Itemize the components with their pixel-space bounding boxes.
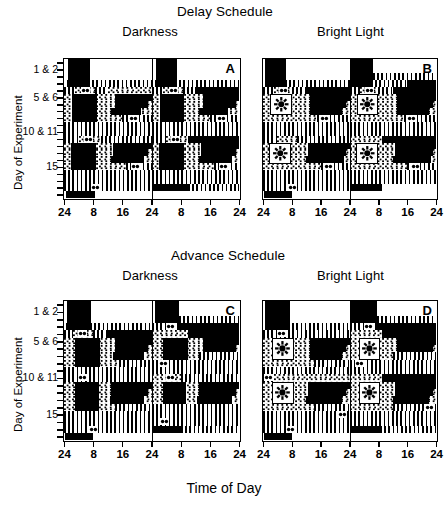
activity-segment-dark: [397, 94, 437, 101]
x-tick-label: 16: [394, 206, 422, 218]
block-title-advance: Advance Schedule: [118, 248, 338, 263]
panel-condition-darkness-advance: Darkness: [85, 268, 215, 283]
activity-segment-dark: [163, 352, 189, 359]
activity-segment-dark: [75, 345, 101, 352]
midnight-divider: [152, 59, 153, 199]
onset-marker-icon: [89, 426, 98, 433]
activity-segment-dark: [75, 352, 101, 359]
activity-segment-dark: [71, 149, 96, 156]
activity-segment-hatch: [101, 136, 152, 143]
activity-segment-hatch: [152, 367, 240, 374]
activity-segment-hatch: [64, 418, 152, 425]
onset-marker-icon: [425, 404, 434, 411]
sun-icon-box: [356, 143, 378, 164]
activity-segment-dark: [68, 59, 89, 66]
activity-segment-dark: [199, 382, 239, 389]
actogram-figure: Delay Schedule Darkness Bright Light Adv…: [0, 0, 448, 514]
sun-icon: [361, 384, 378, 401]
y-tick-label: 15: [2, 408, 58, 420]
y-tick-mark: [57, 153, 63, 155]
activity-segment-hatch: [350, 129, 437, 136]
activity-segment-dark: [397, 108, 429, 115]
activity-segment-hatch: [64, 87, 75, 94]
x-tick-label: 24: [423, 448, 448, 460]
y-tick-mark: [57, 348, 63, 350]
midnight-divider: [350, 59, 351, 199]
x-tick-label: 16: [109, 206, 137, 218]
activity-segment-dark: [308, 382, 349, 389]
activity-segment-dark: [308, 149, 346, 156]
activity-segment-dark: [113, 352, 144, 359]
x-tick-mark: [151, 442, 152, 447]
onset-marker-icon: [169, 87, 178, 94]
activity-segment-hatch: [292, 87, 306, 94]
activity-segment-dark: [71, 156, 96, 163]
onset-marker-icon: [84, 136, 93, 143]
activity-segment-hatch: [263, 177, 350, 184]
activity-segment-dark: [306, 87, 349, 94]
activity-segment-dark: [397, 101, 433, 108]
onset-marker-icon: [288, 184, 297, 191]
y-tick-mark: [57, 181, 63, 183]
y-tick-mark: [57, 319, 63, 321]
activity-segment-dark: [159, 163, 184, 170]
activity-segment-dark: [188, 330, 239, 337]
activity-segment-stip: [277, 136, 297, 143]
activity-segment-hatch: [64, 129, 152, 136]
x-tick-mark: [181, 200, 182, 205]
x-tick-label: 24: [336, 448, 364, 460]
activity-segment-dark: [203, 338, 240, 345]
activity-segment-dark: [115, 94, 152, 101]
activity-segment-hatch: [314, 360, 350, 367]
y-tick-mark: [57, 326, 63, 328]
activity-segment-dark: [310, 108, 342, 115]
activity-segment-dark: [393, 156, 431, 163]
activity-segment-dark: [115, 101, 148, 108]
activity-segment-dark: [156, 59, 177, 66]
activity-segment-dark: [351, 73, 373, 80]
activity-segment-hatch: [263, 367, 350, 374]
activity-segment-hatch: [263, 330, 350, 337]
activity-segment-stip: [350, 404, 393, 411]
x-tick-label: 24: [50, 206, 78, 218]
activity-segment-dark: [395, 382, 436, 389]
activity-segment-hatch: [64, 136, 79, 143]
activity-segment-dark: [111, 382, 151, 389]
y-tick-mark: [57, 422, 63, 424]
onset-marker-icon: [365, 87, 374, 94]
x-tick-mark: [122, 442, 123, 447]
activity-segment-dark: [67, 316, 91, 323]
activity-segment-dark: [156, 73, 177, 80]
activity-segment-hatch: [181, 374, 239, 381]
activity-segment-dark: [163, 338, 189, 345]
activity-segment-hatch: [183, 87, 196, 94]
x-tick-label: 8: [80, 448, 108, 460]
y-tick-mark: [57, 385, 63, 387]
activity-segment-dark: [160, 115, 185, 122]
x-tick-mark: [151, 200, 152, 205]
activity-segment-dark: [152, 184, 189, 191]
activity-segment-dark: [393, 396, 429, 403]
x-tick-label: 16: [307, 448, 335, 460]
y-tick-label: 10 & 11: [2, 371, 58, 383]
onset-marker-icon: [338, 411, 347, 418]
activity-segment-dark: [351, 301, 376, 308]
x-tick-label: 8: [278, 448, 306, 460]
onset-marker-icon: [91, 184, 100, 191]
activity-segment-dark: [201, 149, 236, 156]
x-tick-mark: [349, 442, 350, 447]
sun-icon-box: [270, 94, 292, 115]
activity-segment-dark: [66, 323, 90, 330]
activity-segment-dark: [397, 338, 437, 345]
activity-segment-hatch: [378, 87, 392, 94]
activity-segment-dark: [395, 143, 436, 150]
activity-segment-dark: [310, 345, 346, 352]
activity-segment-hatch: [263, 87, 274, 94]
onset-marker-icon: [129, 115, 138, 122]
activity-segment-hatch: [314, 404, 350, 411]
x-tick-mark: [407, 200, 408, 205]
activity-segment-dark: [195, 87, 239, 94]
sun-icon: [274, 340, 291, 357]
panel-letter-d: D: [423, 303, 432, 318]
activity-segment-hatch: [152, 122, 240, 129]
